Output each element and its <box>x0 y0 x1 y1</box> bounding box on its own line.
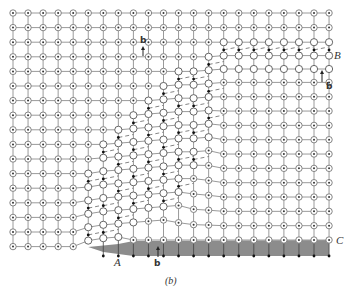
point-label-A: A <box>114 257 121 268</box>
dislocation-lattice-diagram <box>0 0 349 290</box>
burgers-vector-label-bottom: b <box>154 259 160 268</box>
figure-caption: (b) <box>165 276 177 286</box>
burgers-vector-label-right: b <box>326 82 332 91</box>
burgers-vector-label-top: b <box>140 36 146 45</box>
point-label-C: C <box>336 235 343 246</box>
point-label-B: B <box>334 50 341 61</box>
